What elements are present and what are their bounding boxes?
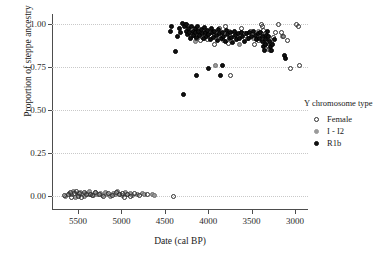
- legend-marker-icon: [311, 117, 322, 122]
- y-axis-title: Proportion of steppe ancestry: [23, 0, 33, 159]
- data-point: [297, 63, 302, 68]
- legend-title: Y chromosome type: [304, 98, 388, 108]
- data-point: [213, 63, 218, 68]
- data-point: [285, 38, 290, 43]
- data-point: [101, 194, 106, 199]
- x-tick-mark: [121, 210, 122, 214]
- data-point: [288, 66, 293, 71]
- x-tick-mark: [78, 210, 79, 214]
- x-tick-label: 5000: [112, 216, 130, 226]
- x-axis-title: Date (cal BP): [52, 236, 308, 246]
- data-point: [171, 194, 176, 199]
- legend-label: R1b: [327, 138, 341, 148]
- data-point: [272, 37, 277, 42]
- x-tick-mark: [208, 210, 209, 214]
- plot-panel: 0.000.250.500.751.00 5500500045004000350…: [52, 14, 308, 210]
- x-tick-label: 3000: [286, 216, 304, 226]
- y-tick-mark: [48, 196, 52, 197]
- data-point: [181, 92, 186, 97]
- data-point: [276, 22, 281, 27]
- x-tick-mark: [295, 210, 296, 214]
- x-tick-label: 3500: [243, 216, 261, 226]
- legend-item: Female: [304, 113, 388, 125]
- y-tick-mark: [48, 24, 52, 25]
- data-point: [265, 29, 270, 34]
- legend-label: Female: [327, 114, 352, 124]
- gridline: [52, 67, 308, 68]
- data-point: [152, 193, 157, 198]
- y-tick-mark: [48, 110, 52, 111]
- data-point: [206, 66, 211, 71]
- data-point: [273, 30, 278, 35]
- scatter-plot-figure: 0.000.250.500.751.00 5500500045004000350…: [0, 0, 388, 261]
- legend-label: I - I2: [327, 126, 344, 136]
- y-tick-label: 0.00: [30, 191, 46, 201]
- y-tick-mark: [48, 67, 52, 68]
- legend: Y chromosome type FemaleI - I2R1b: [304, 98, 388, 149]
- data-point: [145, 192, 150, 197]
- legend-item: I - I2: [304, 125, 388, 137]
- data-point: [168, 29, 173, 34]
- gridline: [52, 153, 308, 154]
- legend-item: R1b: [304, 137, 388, 149]
- x-tick-mark: [165, 210, 166, 214]
- x-tick-label: 4500: [156, 216, 174, 226]
- legend-marker-icon: [311, 129, 322, 134]
- x-tick-mark: [252, 210, 253, 214]
- data-point: [137, 193, 142, 198]
- x-tick-label: 4000: [199, 216, 217, 226]
- legend-marker-icon: [311, 141, 322, 146]
- x-tick-label: 5500: [69, 216, 87, 226]
- y-tick-mark: [48, 153, 52, 154]
- gridline: [52, 110, 308, 111]
- legend-entries: FemaleI - I2R1b: [304, 113, 388, 149]
